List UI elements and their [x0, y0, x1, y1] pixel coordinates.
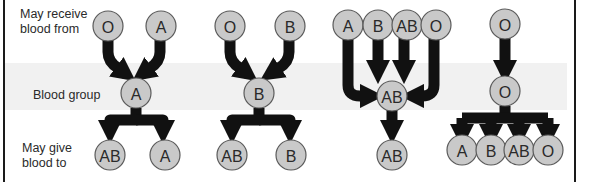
svg-text:AB: AB [396, 18, 417, 35]
node-o-give-a: A [447, 135, 477, 165]
node-ab-receive-ab: AB [392, 10, 422, 40]
svg-text:AB: AB [221, 148, 242, 165]
node-b-receive-o: O [215, 11, 245, 41]
node-o-give-b: B [476, 135, 506, 165]
node-ab-group: AB [377, 81, 407, 111]
node-o-group: O [490, 76, 520, 106]
svg-text:AB: AB [508, 143, 529, 160]
svg-text:A: A [343, 18, 354, 35]
svg-text:B: B [373, 18, 384, 35]
arrows-to-b [230, 38, 289, 74]
node-a-receive-a: A [146, 11, 176, 41]
svg-text:A: A [457, 143, 468, 160]
node-b-give-b: B [276, 140, 306, 170]
svg-text:B: B [254, 86, 265, 103]
node-ab-receive-a: A [333, 10, 363, 40]
svg-text:B: B [486, 143, 497, 160]
svg-text:AB: AB [381, 148, 402, 165]
node-b-receive-b: B [275, 11, 305, 41]
svg-text:AB: AB [99, 148, 120, 165]
node-ab-give-ab: AB [377, 140, 407, 170]
svg-text:AB: AB [381, 89, 402, 106]
node-a-group: A [121, 78, 151, 108]
svg-text:A: A [131, 86, 142, 103]
node-o-give-o: O [533, 135, 563, 165]
node-a-receive-o: O [93, 11, 123, 41]
svg-text:B: B [286, 148, 297, 165]
svg-text:A: A [160, 148, 171, 165]
svg-text:A: A [156, 19, 167, 36]
node-o-receive-o: O [490, 9, 520, 39]
svg-text:O: O [499, 17, 511, 34]
svg-text:O: O [102, 19, 114, 36]
svg-text:B: B [285, 19, 296, 36]
node-a-give-a: A [150, 140, 180, 170]
svg-text:O: O [430, 18, 442, 35]
arrows-from-o [462, 106, 548, 136]
node-a-give-ab: AB [95, 140, 125, 170]
node-ab-receive-b: B [363, 10, 393, 40]
node-o-give-ab: AB [504, 135, 534, 165]
nodes: O A A AB A O B B AB B A B AB O AB AB O O… [93, 9, 563, 170]
arrows-from-a [110, 108, 163, 132]
node-b-give-ab: AB [217, 140, 247, 170]
svg-text:O: O [542, 143, 554, 160]
compatibility-diagram: O A A AB A O B B AB B A B AB O AB AB O O… [0, 0, 589, 182]
node-b-group: B [244, 78, 274, 108]
svg-text:O: O [224, 19, 236, 36]
svg-text:O: O [499, 84, 511, 101]
arrows-from-b [232, 108, 290, 132]
node-ab-receive-o: O [421, 10, 451, 40]
arrows-to-a [108, 38, 160, 74]
